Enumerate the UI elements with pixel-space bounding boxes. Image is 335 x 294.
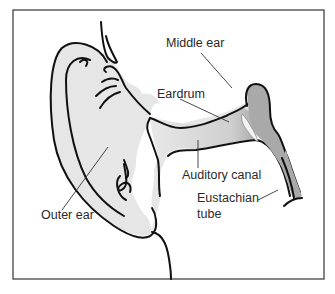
label-eustachian-tube-line2: tube bbox=[197, 207, 221, 221]
label-auditory-canal: Auditory canal bbox=[182, 168, 261, 182]
label-outer-ear: Outer ear bbox=[41, 208, 94, 222]
ear-anatomy-diagram: Middle ear Eardrum Auditory canal Eustac… bbox=[0, 0, 335, 294]
label-eardrum: Eardrum bbox=[157, 87, 205, 101]
label-middle-ear: Middle ear bbox=[166, 36, 224, 50]
label-eustachian-tube-line1: Eustachian bbox=[197, 191, 259, 205]
